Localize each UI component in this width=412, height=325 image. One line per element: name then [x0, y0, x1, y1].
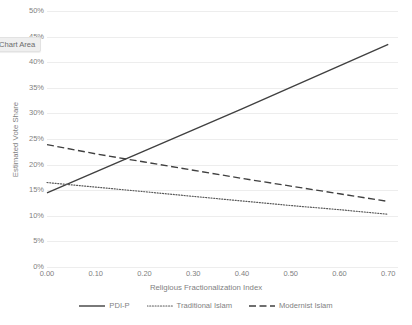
legend-item[interactable]: Modernist Islam [249, 301, 333, 310]
x-axis-title: Religious Fractionalization Index [0, 283, 412, 292]
chart-container: 0%5%10%15%20%25%30%35%40%45%50% 0.000.10… [0, 0, 412, 325]
legend-swatch [147, 302, 173, 310]
legend-item[interactable]: Traditional Islam [147, 301, 232, 310]
legend-label: PDI-P [109, 301, 129, 310]
y-axis-title: Estimated Vote Share [11, 80, 20, 200]
chart-legend: PDI-PTraditional IslamModernist Islam [0, 301, 412, 310]
series-line [47, 183, 388, 215]
plot-lines [0, 0, 412, 325]
legend-label: Modernist Islam [279, 301, 333, 310]
chart-area-tooltip: Chart Area [0, 37, 41, 52]
legend-item[interactable]: PDI-P [79, 301, 129, 310]
series-line [47, 44, 388, 192]
legend-swatch [79, 302, 105, 310]
legend-swatch [249, 302, 275, 310]
legend-label: Traditional Islam [177, 301, 232, 310]
series-line [47, 145, 388, 202]
